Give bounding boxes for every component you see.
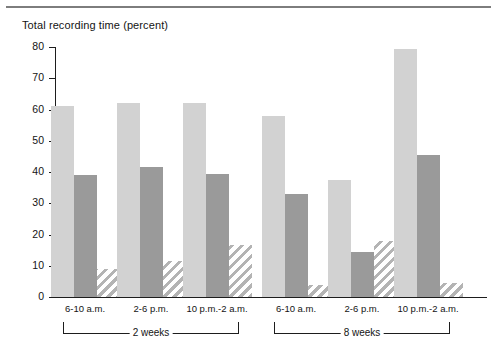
bar-hatched-5 [440,283,463,297]
x-axis-label-5: 10 p.m.-2 a.m. [397,303,458,314]
bar-dark-gray-5 [417,155,440,297]
y-axis-tick-label: 20 [18,228,44,240]
bar-light-gray-5 [394,49,417,297]
bar-light-gray-1 [117,103,140,297]
bar-dark-gray-1 [140,167,163,297]
x-axis-label-3: 6-10 a.m. [276,303,316,314]
y-axis-tick-label: 0 [18,290,44,302]
group-label-0: 2 weeks [130,327,173,338]
figure-container: Total recording time (percent) 010203040… [0,0,497,359]
x-axis-label-2: 10 p.m.-2 a.m. [186,303,247,314]
bar-light-gray-0 [51,106,74,297]
y-axis-tick-label: 10 [18,259,44,271]
y-axis-tick-label: 60 [18,103,44,115]
bar-dark-gray-4 [351,252,374,297]
y-axis-tick-label: 50 [18,134,44,146]
chart-title: Total recording time (percent) [22,19,168,31]
y-axis-tick-label: 80 [18,40,44,52]
bar-light-gray-4 [328,180,351,297]
bar-dark-gray-0 [74,175,97,297]
x-axis-label-0: 6-10 a.m. [65,303,105,314]
y-axis-tick [49,297,55,298]
bar-light-gray-2 [183,103,206,297]
x-axis-label-1: 2-6 p.m. [134,303,169,314]
x-axis-line [55,297,487,298]
plot-area [55,47,487,297]
bar-dark-gray-2 [206,174,229,297]
x-axis-label-4: 2-6 p.m. [345,303,380,314]
bar-hatched-2 [229,245,252,297]
top-rule-divider [6,6,491,8]
y-axis-tick-label: 30 [18,196,44,208]
y-axis-tick-label: 70 [18,71,44,83]
group-label-1: 8 weeks [341,327,384,338]
bar-dark-gray-3 [285,194,308,297]
bar-light-gray-3 [262,116,285,297]
y-axis-tick-label: 40 [18,165,44,177]
